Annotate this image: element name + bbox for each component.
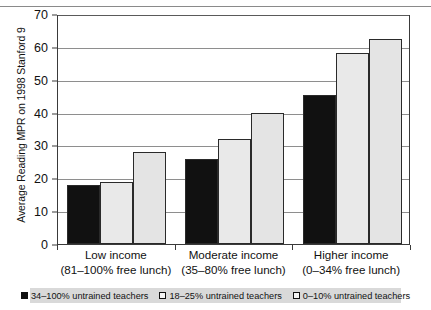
category-sublabel: (0–34% free lunch) [292,262,410,277]
plot-area [57,15,410,245]
category-name: Moderate income [189,248,279,261]
bar-chart-figure: Average Reading MPR on 1998 Stanford 9 0… [0,0,431,310]
bar [185,159,218,244]
legend-item[interactable]: 34–100% untrained teachers [21,291,148,301]
legend-item[interactable]: 0–10% untrained teachers [293,291,410,301]
y-axis-tick-label: 40 [6,107,48,121]
legend-swatch-icon [159,292,166,299]
x-axis-category-label: Low income(81–100% free lunch) [57,247,175,277]
y-axis-tick-label: 60 [6,41,48,55]
legend-swatch-icon [21,292,28,299]
y-axis-tick-label: 70 [6,8,48,22]
legend-label: 18–25% untrained teachers [169,291,281,301]
legend-label: 34–100% untrained teachers [31,291,148,301]
top-divider-rule [0,6,431,7]
chart-legend: 34–100% untrained teachers18–25% untrain… [30,288,401,303]
category-name: Low income [85,248,147,261]
bar [218,139,251,244]
legend-swatch-icon [293,292,300,299]
y-axis-tick-label: 30 [6,139,48,153]
bar [100,182,133,244]
y-axis-tick-label: 10 [6,205,48,219]
x-axis-category-labels: Low income(81–100% free lunch)Moderate i… [57,247,410,289]
bar [67,185,100,244]
category-sublabel: (35–80% free lunch) [175,262,293,277]
bar-series-container [58,15,409,244]
bar [251,113,284,244]
y-axis-tick-label: 0 [6,238,48,252]
y-axis-tick-label: 20 [6,172,48,186]
x-axis-category-label: Moderate income(35–80% free lunch) [175,247,293,277]
bar [369,39,402,244]
x-axis-category-label: Higher income(0–34% free lunch) [292,247,410,277]
category-sublabel: (81–100% free lunch) [57,262,175,277]
legend-label: 0–10% untrained teachers [303,291,410,301]
legend-item[interactable]: 18–25% untrained teachers [159,291,281,301]
bar [336,53,369,244]
y-axis-tick-label: 50 [6,74,48,88]
x-axis-tick-mark [410,245,411,250]
category-name: Higher income [314,248,389,261]
bar [133,152,166,244]
bar [303,95,336,245]
